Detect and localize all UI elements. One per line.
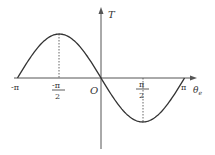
tick-label-pi: π: [181, 83, 186, 92]
tick-label-half-pi-num: π: [139, 80, 144, 89]
tick-label-half-pi-den: 2: [139, 91, 144, 100]
y-axis-label: T: [108, 9, 116, 20]
x-axis-label: θe: [193, 85, 202, 96]
tick-label-neg-pi: -π: [11, 83, 19, 92]
tick-label-neg-half-pi-num: -π: [52, 81, 60, 90]
x-axis-arrow-icon: [190, 76, 197, 81]
tick-label-neg-half-pi-den: 2: [55, 92, 60, 101]
origin-label: O: [90, 85, 98, 96]
torque-angle-chart: T θe O -π -π 2 π 2 π: [0, 0, 215, 155]
y-axis-arrow-icon: [99, 7, 104, 14]
